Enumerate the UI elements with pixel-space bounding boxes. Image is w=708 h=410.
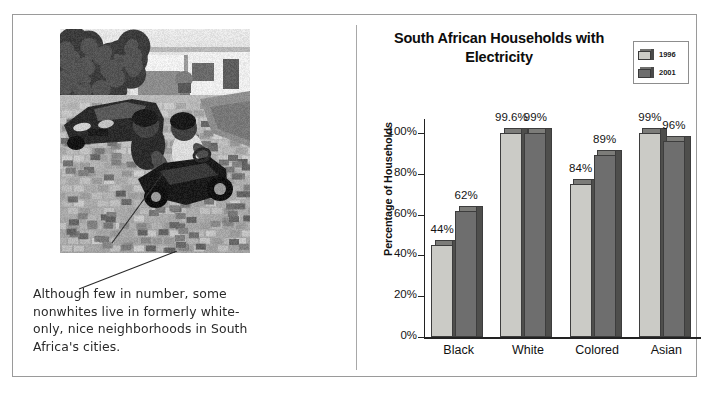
- y-tick-label: 20%: [377, 288, 417, 300]
- x-category-label-asian: Asian: [631, 343, 701, 357]
- bar-side-face: [545, 128, 552, 337]
- y-tick-mark: [418, 215, 425, 216]
- y-tick-mark: [418, 296, 425, 297]
- bar-value-label: 89%: [582, 133, 628, 145]
- bar-white-1996: [500, 133, 522, 337]
- bar-value-label: 62%: [443, 189, 489, 201]
- y-tick-label: 100%: [377, 125, 417, 137]
- bar-white-2001: [524, 133, 546, 337]
- x-category-label-colored: Colored: [562, 343, 632, 357]
- bar-asian-2001: [663, 141, 685, 337]
- x-category-label-white: White: [493, 343, 563, 357]
- bar-side-face: [476, 206, 483, 337]
- x-category-label-black: Black: [424, 343, 494, 357]
- bar-value-label: 99%: [512, 111, 558, 123]
- plot-area: Percentage of Households 0%20%40%60%80%1…: [356, 15, 698, 376]
- bar-side-face: [615, 150, 622, 337]
- photograph: [60, 29, 250, 253]
- bar-value-label: 96%: [651, 119, 697, 131]
- bar-colored-2001: [594, 155, 616, 337]
- y-tick-mark: [418, 337, 425, 338]
- bar-side-face: [684, 136, 691, 337]
- bar-asian-1996: [639, 133, 661, 337]
- photo-panel: Although few in number, some nonwhites l…: [13, 15, 356, 376]
- chart-panel: South African Households with Electricit…: [356, 15, 698, 376]
- figure-frame: Although few in number, some nonwhites l…: [12, 14, 697, 377]
- bar-black-1996: [431, 245, 453, 337]
- y-tick-label: 0%: [377, 329, 417, 341]
- bar-value-label: 44%: [419, 223, 465, 235]
- x-axis-line: [424, 337, 701, 339]
- y-tick-label: 80%: [377, 166, 417, 178]
- y-tick-mark: [418, 255, 425, 256]
- bar-colored-1996: [570, 184, 592, 337]
- photo-caption: Although few in number, some nonwhites l…: [33, 285, 263, 355]
- y-tick-mark: [418, 133, 425, 134]
- photograph-image: [60, 29, 250, 253]
- bar-value-label: 84%: [558, 162, 604, 174]
- y-tick-label: 60%: [377, 207, 417, 219]
- y-tick-label: 40%: [377, 247, 417, 259]
- y-tick-mark: [418, 174, 425, 175]
